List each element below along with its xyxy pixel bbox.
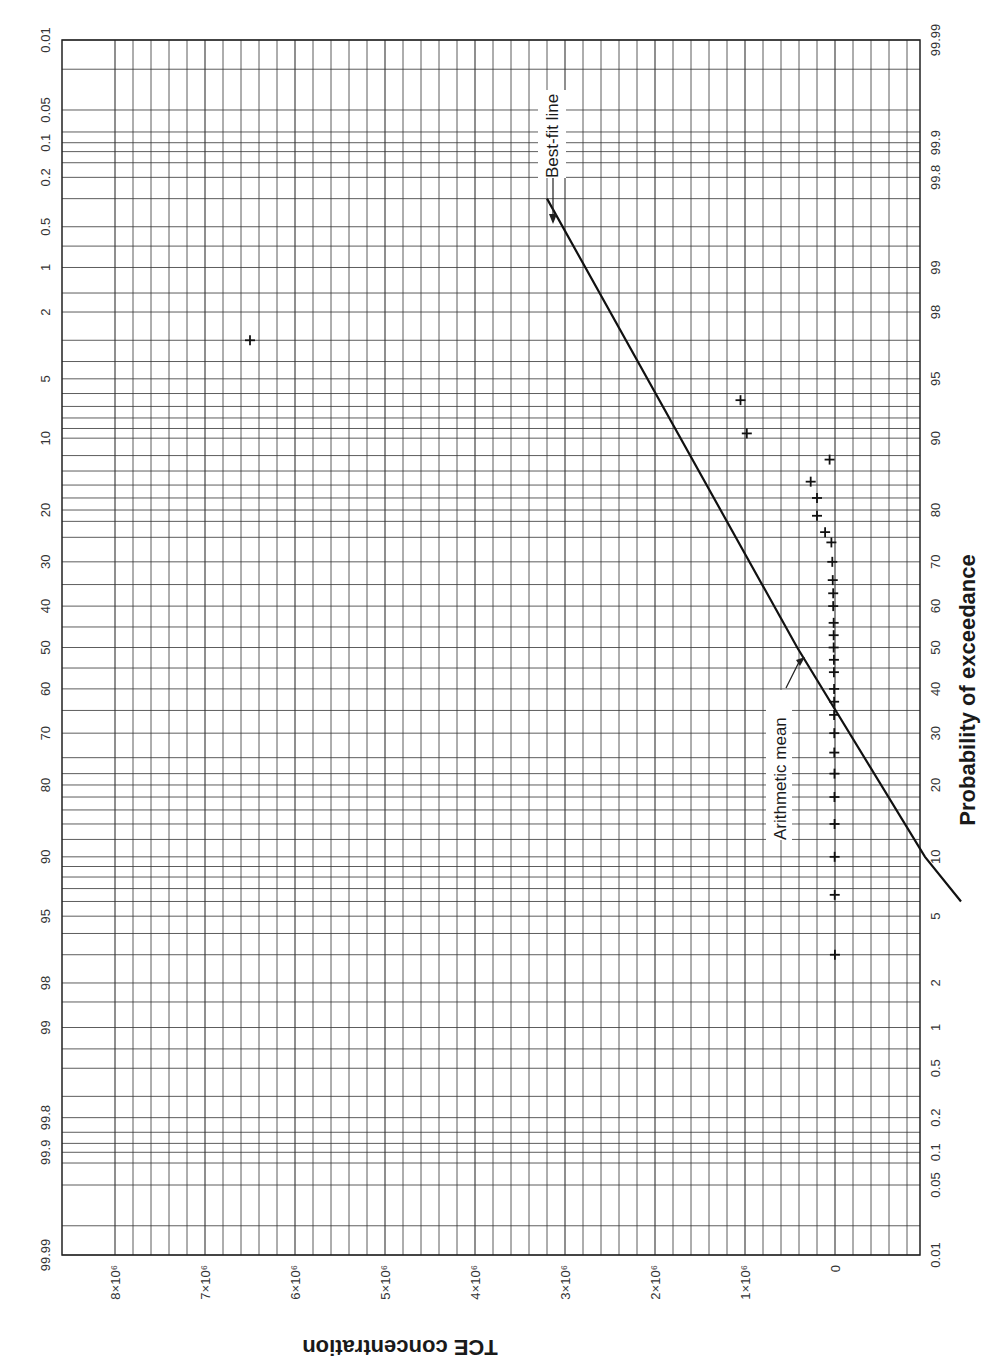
probability-tick-label: 90 — [928, 431, 943, 445]
probability-tick-label: 99.9 — [928, 130, 943, 155]
data-point-marker — [830, 890, 840, 900]
chart-grid — [62, 40, 920, 1255]
probability-tick-label: 99.8 — [38, 1105, 53, 1130]
probability-ticks-left: 0.010.050.10.20.512510203040506070809095… — [38, 27, 53, 1271]
data-point-marker — [736, 395, 746, 405]
data-point-marker — [829, 792, 839, 802]
concentration-tick-label: 6×10⁶ — [288, 1265, 303, 1300]
data-point-marker — [829, 710, 839, 720]
probability-tick-label: 99 — [928, 260, 943, 274]
probability-tick-label: 0.01 — [38, 27, 53, 52]
best-fit-annotation: Best-fit line — [538, 90, 566, 224]
probability-tick-label: 0.5 — [928, 1059, 943, 1077]
concentration-tick-label: 1×10⁶ — [738, 1265, 753, 1300]
data-point-marker — [827, 557, 837, 567]
probability-tick-label: 98 — [38, 976, 53, 990]
data-point-marker — [812, 493, 822, 503]
concentration-tick-label: 8×10⁶ — [108, 1265, 123, 1300]
data-point-marker — [829, 697, 839, 707]
data-point-marker — [829, 684, 839, 694]
probability-tick-label: 99.8 — [928, 165, 943, 190]
probability-tick-label: 99.99 — [928, 24, 943, 57]
probability-tick-label: 99.9 — [38, 1140, 53, 1165]
probability-tick-label: 0.5 — [38, 218, 53, 236]
data-point-marker — [830, 852, 840, 862]
probability-tick-label: 1 — [928, 1024, 943, 1031]
probability-tick-label: 40 — [928, 682, 943, 696]
probability-tick-label: 98 — [928, 305, 943, 319]
probability-tick-label: 60 — [38, 682, 53, 696]
probability-tick-label: 10 — [38, 431, 53, 445]
data-point-marker — [829, 630, 839, 640]
probability-tick-label: 30 — [928, 726, 943, 740]
data-point-marker — [812, 511, 822, 521]
data-point-marker — [828, 588, 838, 598]
x-axis-title: TCE concentration — [302, 1335, 498, 1360]
probability-tick-label: 80 — [38, 778, 53, 792]
probability-tick-label: 2 — [928, 979, 943, 986]
data-point-marker — [828, 575, 838, 585]
probability-tick-label: 1 — [38, 264, 53, 271]
probability-tick-label: 5 — [928, 913, 943, 920]
data-point-marker — [742, 428, 752, 438]
concentration-tick-label: 5×10⁶ — [378, 1265, 393, 1300]
probability-tick-label: 95 — [928, 372, 943, 386]
mean-arrow — [786, 660, 800, 688]
concentration-tick-label: 0 — [828, 1265, 843, 1272]
data-point-marker — [829, 667, 839, 677]
best-fit-line — [547, 199, 961, 902]
probability-tick-label: 70 — [38, 726, 53, 740]
probability-tick-label: 5 — [38, 375, 53, 382]
data-point-marker — [829, 728, 839, 738]
probability-tick-label: 20 — [38, 503, 53, 517]
probability-tick-label: 30 — [38, 555, 53, 569]
data-point-marker — [825, 455, 835, 465]
concentration-ticks: 8×10⁶7×10⁶6×10⁶5×10⁶4×10⁶3×10⁶2×10⁶1×10⁶… — [108, 1265, 843, 1300]
probability-tick-label: 0.01 — [928, 1242, 943, 1267]
data-point-marker — [820, 527, 830, 537]
data-point-marker — [830, 950, 840, 960]
probability-tick-label: 0.05 — [38, 97, 53, 122]
best-fit-label: Best-fit line — [543, 94, 562, 178]
concentration-tick-label: 3×10⁶ — [558, 1265, 573, 1300]
probability-tick-label: 40 — [38, 599, 53, 613]
probability-tick-label: 95 — [38, 909, 53, 923]
data-point-marker — [828, 601, 838, 611]
probability-tick-label: 99 — [38, 1020, 53, 1034]
arrow-head-icon — [549, 214, 557, 224]
probability-tick-label: 90 — [38, 850, 53, 864]
probability-ticks-right: 99.9999.999.8999895908070605040302010521… — [928, 24, 943, 1268]
probability-tick-label: 80 — [928, 503, 943, 517]
data-point-marker — [830, 819, 840, 829]
probability-tick-label: 0.2 — [928, 1109, 943, 1127]
probability-tick-label: 0.05 — [928, 1172, 943, 1197]
data-point-marker — [829, 643, 839, 653]
data-point-marker — [829, 655, 839, 665]
data-point-marker — [829, 618, 839, 628]
data-point-marker — [829, 748, 839, 758]
probability-tick-label: 0.2 — [38, 168, 53, 186]
concentration-tick-label: 4×10⁶ — [468, 1265, 483, 1300]
concentration-tick-label: 7×10⁶ — [198, 1265, 213, 1300]
probability-tick-label: 2 — [38, 308, 53, 315]
data-point-marker — [829, 769, 839, 779]
probability-tick-label: 0.1 — [38, 134, 53, 152]
arithmetic-mean-label: Arithmetic mean — [771, 717, 790, 840]
concentration-tick-label: 2×10⁶ — [648, 1265, 663, 1300]
probability-tick-label: 99.99 — [38, 1239, 53, 1272]
probability-chart: 0.010.050.10.20.512510203040506070809095… — [0, 0, 997, 1368]
probability-tick-label: 60 — [928, 599, 943, 613]
probability-tick-label: 50 — [38, 640, 53, 654]
probability-tick-label: 20 — [928, 778, 943, 792]
y-axis-title: Probability of exceedance — [955, 554, 980, 825]
probability-tick-label: 70 — [928, 555, 943, 569]
probability-tick-label: 0.1 — [928, 1143, 943, 1161]
probability-tick-label: 50 — [928, 640, 943, 654]
data-point-marker — [245, 335, 255, 345]
